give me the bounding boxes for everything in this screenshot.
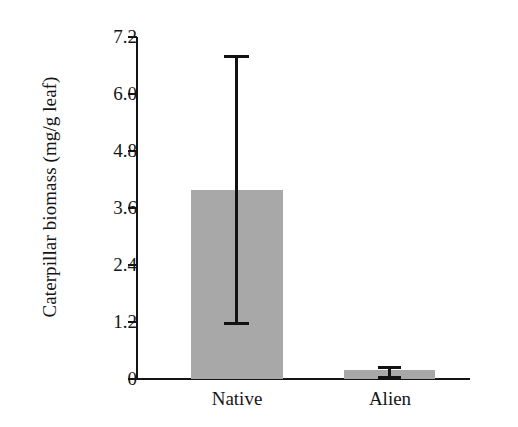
plot-area: 7.2 6.0 4.8 3.6 2.4 1.2 0	[0, 0, 518, 427]
y-tick-label: 3.6	[17, 198, 137, 217]
y-tick-label: 4.8	[17, 141, 137, 160]
chart-figure: Caterpillar biomass (mg/g leaf) 7.2 6.0 …	[0, 0, 518, 427]
y-tick-label: 2.4	[17, 255, 137, 274]
error-bar-cap-lower-alien	[378, 376, 401, 379]
y-tick-label: 6.0	[17, 84, 137, 103]
y-tick-label: 7.2	[17, 27, 137, 46]
error-bar-cap-upper-native	[224, 55, 249, 58]
x-tick-label-alien: Alien	[330, 388, 450, 411]
x-tick-label-native: Native	[177, 388, 297, 411]
error-bar-cap-upper-alien	[378, 366, 401, 369]
y-tick-label: 1.2	[17, 312, 137, 331]
error-bar-cap-lower-native	[224, 322, 249, 325]
y-tick-label: 0	[17, 369, 137, 388]
error-bar-line-native	[235, 56, 238, 324]
